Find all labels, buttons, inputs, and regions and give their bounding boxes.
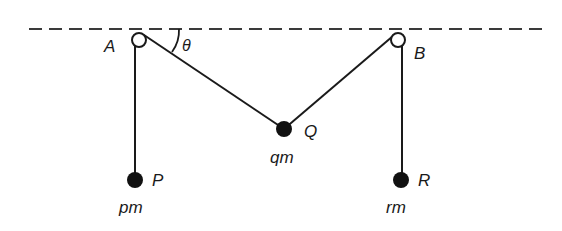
label-rm: rm bbox=[386, 198, 406, 217]
string-A-to-Q bbox=[144, 35, 284, 129]
pulley-B bbox=[391, 33, 405, 47]
mass-R bbox=[393, 172, 409, 188]
mass-P bbox=[127, 172, 143, 188]
pulley-A bbox=[132, 33, 146, 47]
label-A: A bbox=[103, 37, 115, 56]
label-R: R bbox=[418, 171, 430, 190]
mass-Q bbox=[276, 121, 292, 137]
label-theta: θ bbox=[182, 37, 191, 54]
label-Q: Q bbox=[304, 122, 317, 141]
string-Q-to-B bbox=[284, 36, 393, 129]
label-qm: qm bbox=[270, 148, 294, 167]
pulley-diagram: A B θ Q qm P pm R rm bbox=[0, 0, 562, 231]
angle-theta-arc bbox=[172, 29, 179, 52]
label-P: P bbox=[152, 171, 164, 190]
label-pm: pm bbox=[118, 198, 143, 217]
label-B: B bbox=[414, 44, 425, 63]
